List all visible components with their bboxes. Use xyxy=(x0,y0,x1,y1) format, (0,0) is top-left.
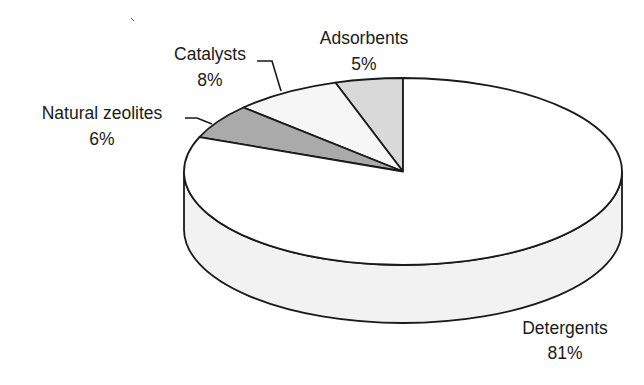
pct-natural-zeolites: 6% xyxy=(89,129,114,149)
pct-catalysts: 8% xyxy=(197,70,222,90)
pie-slices xyxy=(184,78,622,265)
label-catalysts: Catalysts xyxy=(174,44,246,64)
pct-detergents: 81% xyxy=(547,343,582,363)
leader-line-catalysts xyxy=(257,61,281,91)
leader-line-natural-zeolites xyxy=(185,118,212,124)
pct-adsorbents: 5% xyxy=(351,54,376,74)
pie-chart: Adsorbents 5% Catalysts 8% Natural zeoli… xyxy=(0,0,644,385)
label-detergents: Detergents xyxy=(522,318,608,338)
label-natural-zeolites: Natural zeolites xyxy=(42,103,163,123)
label-adsorbents: Adsorbents xyxy=(320,28,409,48)
stray-mark xyxy=(131,18,134,21)
